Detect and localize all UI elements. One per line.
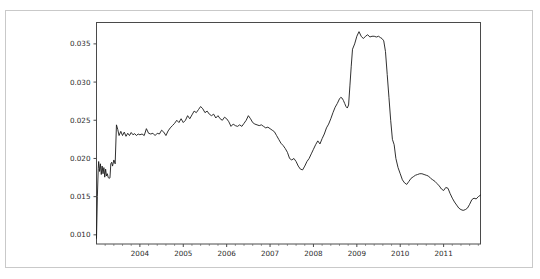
x-tick-label: 2005 bbox=[174, 249, 192, 258]
x-tick-label: 2010 bbox=[391, 249, 410, 258]
series-line-1 bbox=[97, 32, 481, 239]
x-tick-label: 2007 bbox=[261, 249, 279, 258]
x-tick-label: 2004 bbox=[131, 249, 150, 258]
y-tick-label: 0.015 bbox=[70, 192, 91, 201]
x-axis-ticks: 20042005200620072008200920102011 bbox=[105, 244, 478, 258]
plot-frame bbox=[97, 23, 481, 245]
plot-area-border bbox=[97, 23, 481, 245]
figure-container: 0.0100.0150.0200.0250.0300.035 200420052… bbox=[0, 0, 540, 279]
x-tick-label: 2009 bbox=[348, 249, 367, 258]
x-tick-label: 2006 bbox=[218, 249, 237, 258]
line-chart: 0.0100.0150.0200.0250.0300.035 200420052… bbox=[0, 0, 540, 279]
y-tick-label: 0.025 bbox=[70, 116, 91, 125]
y-tick-label: 0.030 bbox=[70, 78, 91, 87]
y-tick-label: 0.020 bbox=[70, 154, 91, 163]
y-tick-label: 0.010 bbox=[70, 230, 91, 239]
y-tick-label: 0.035 bbox=[70, 39, 91, 48]
data-series-group bbox=[97, 32, 481, 239]
y-axis-ticks: 0.0100.0150.0200.0250.0300.035 bbox=[70, 39, 97, 239]
x-tick-label: 2008 bbox=[304, 249, 323, 258]
x-tick-label: 2011 bbox=[434, 249, 452, 258]
